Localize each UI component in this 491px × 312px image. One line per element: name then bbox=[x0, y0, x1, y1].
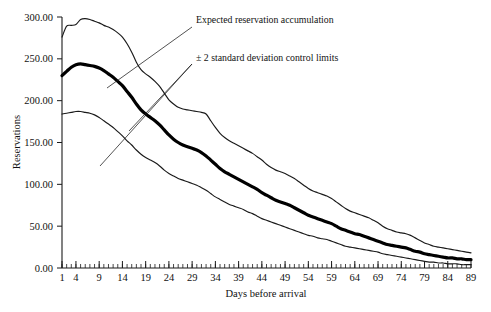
x-tick-label: 59 bbox=[326, 272, 337, 283]
x-tick-label: 54 bbox=[303, 272, 314, 283]
x-tick-label: 89 bbox=[466, 272, 477, 283]
y-axis-tick-labels: 0.0050.00100.00150.00200.00250.00300.00 bbox=[24, 12, 53, 274]
x-tick-label: 4 bbox=[73, 272, 79, 283]
y-axis-ticks bbox=[57, 17, 62, 268]
chart-annotations: Expected reservation accumulation ± 2 st… bbox=[100, 14, 338, 166]
y-tick-label: 0.00 bbox=[35, 263, 53, 274]
x-tick-label: 9 bbox=[97, 272, 102, 283]
y-tick-label: 200.00 bbox=[24, 95, 53, 106]
y-tick-label: 150.00 bbox=[24, 137, 53, 148]
y-tick-label: 250.00 bbox=[24, 53, 53, 64]
x-tick-label: 49 bbox=[280, 272, 291, 283]
expected-leader-line bbox=[107, 27, 192, 88]
x-axis-tick-labels: 14914192429343944495459646974798489 bbox=[59, 272, 476, 283]
x-tick-label: 19 bbox=[140, 272, 151, 283]
x-tick-label: 29 bbox=[187, 272, 198, 283]
x-tick-label: 84 bbox=[443, 272, 454, 283]
y-tick-label: 50.00 bbox=[29, 221, 53, 232]
x-tick-label: 34 bbox=[210, 272, 221, 283]
x-tick-label: 24 bbox=[164, 272, 175, 283]
reservation-accumulation-chart: 0.0050.00100.00150.00200.00250.00300.00 … bbox=[0, 0, 491, 312]
x-axis: 14914192429343944495459646974798489 Days… bbox=[59, 261, 476, 299]
x-axis-minor-ticks bbox=[62, 264, 471, 268]
x-tick-label: 44 bbox=[257, 272, 268, 283]
y-tick-label: 300.00 bbox=[24, 12, 53, 23]
series-line-expected bbox=[62, 64, 471, 260]
x-tick-label: 69 bbox=[373, 272, 384, 283]
control-limits-annotation-label: ± 2 standard deviation control limits bbox=[196, 52, 338, 63]
x-tick-label: 79 bbox=[419, 272, 430, 283]
x-tick-label: 74 bbox=[396, 272, 407, 283]
chart-canvas: 0.0050.00100.00150.00200.00250.00300.00 … bbox=[0, 0, 491, 312]
y-axis-title: Reservations bbox=[11, 115, 22, 169]
x-axis-title: Days before arrival bbox=[225, 288, 306, 299]
y-axis: 0.0050.00100.00150.00200.00250.00300.00 … bbox=[11, 12, 62, 274]
x-tick-label: 1 bbox=[59, 272, 64, 283]
series-line-lower-limit bbox=[62, 111, 471, 264]
x-tick-label: 39 bbox=[233, 272, 244, 283]
x-tick-label: 14 bbox=[117, 272, 128, 283]
expected-annotation-label: Expected reservation accumulation bbox=[196, 14, 334, 25]
y-tick-label: 100.00 bbox=[24, 179, 53, 190]
x-tick-label: 64 bbox=[350, 272, 361, 283]
